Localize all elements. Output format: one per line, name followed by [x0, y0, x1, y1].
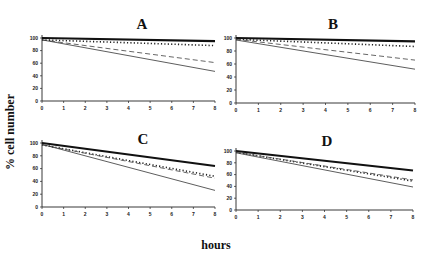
y-tick-label: 100 — [30, 35, 39, 41]
y-tick-label: 100 — [30, 140, 39, 146]
panel-a: A020406080100012345678 — [30, 16, 217, 111]
x-tick-label: 7 — [391, 107, 394, 113]
series-line-thick-solid — [42, 143, 215, 166]
x-tick-label: 3 — [105, 211, 108, 217]
y-tick-label: 40 — [226, 183, 232, 189]
y-tick-label: 100 — [224, 35, 233, 41]
y-tick-label: 80 — [32, 47, 38, 53]
x-tick-label: 6 — [170, 211, 173, 217]
x-tick-label: 1 — [62, 105, 65, 111]
y-tick-label: 0 — [35, 204, 38, 210]
y-tick-label: 60 — [226, 171, 232, 177]
x-tick-label: 1 — [62, 211, 65, 217]
y-tick-label: 20 — [32, 191, 38, 197]
y-tick-label: 20 — [32, 85, 38, 91]
y-tick-label: 40 — [226, 74, 232, 80]
x-tick-label: 7 — [389, 214, 392, 220]
panels-container: A020406080100012345678B02040608010001234… — [30, 16, 417, 220]
y-tick-label: 0 — [229, 100, 232, 106]
y-tick-label: 60 — [32, 165, 38, 171]
panel-title: D — [322, 133, 333, 149]
x-tick-label: 5 — [345, 214, 348, 220]
y-tick-label: 80 — [226, 160, 232, 166]
y-tick-label: 20 — [226, 195, 232, 201]
y-tick-label: 40 — [32, 178, 38, 184]
x-tick-label: 2 — [84, 211, 87, 217]
x-tick-label: 8 — [214, 105, 217, 111]
x-tick-label: 7 — [192, 105, 195, 111]
panel-d: D020406080100012345678 — [224, 133, 415, 220]
y-tick-label: 100 — [224, 148, 233, 154]
series-line-thick-solid — [42, 38, 215, 41]
x-tick-label: 5 — [149, 105, 152, 111]
y-tick-label: 80 — [226, 48, 232, 54]
y-tick-label: 40 — [32, 73, 38, 79]
y-tick-label: 60 — [226, 61, 232, 67]
x-tick-label: 8 — [414, 107, 417, 113]
x-tick-label: 4 — [127, 105, 130, 111]
x-tick-label: 3 — [301, 214, 304, 220]
x-tick-label: 2 — [279, 214, 282, 220]
series-line-thin-solid — [42, 144, 215, 190]
x-tick-label: 2 — [84, 105, 87, 111]
panel-b: B020406080100012345678 — [224, 16, 417, 113]
figure: A020406080100012345678B02040608010001234… — [0, 0, 430, 265]
panel-title: B — [328, 16, 338, 32]
x-tick-label: 4 — [323, 214, 326, 220]
x-tick-label: 7 — [192, 211, 195, 217]
y-tick-label: 60 — [32, 60, 38, 66]
panel-title: C — [138, 131, 149, 147]
x-tick-label: 5 — [346, 107, 349, 113]
y-axis-title: % cell number — [3, 93, 17, 170]
series-line-thin-solid — [236, 40, 415, 69]
x-tick-label: 6 — [369, 107, 372, 113]
series-line-thick-solid — [236, 151, 413, 171]
x-axis-title: hours — [201, 238, 231, 252]
x-tick-label: 0 — [41, 105, 44, 111]
series-line-thick-solid — [236, 38, 415, 41]
x-tick-label: 5 — [149, 211, 152, 217]
x-tick-label: 6 — [367, 214, 370, 220]
x-tick-label: 4 — [324, 107, 327, 113]
x-tick-label: 1 — [257, 107, 260, 113]
y-tick-label: 0 — [229, 207, 232, 213]
x-tick-label: 1 — [257, 214, 260, 220]
series-line-dashed — [42, 40, 215, 63]
series-line-dashed — [236, 152, 413, 180]
panel-title: A — [137, 16, 148, 32]
x-tick-label: 0 — [235, 214, 238, 220]
x-tick-label: 4 — [127, 211, 130, 217]
y-tick-label: 20 — [226, 87, 232, 93]
x-tick-label: 3 — [105, 105, 108, 111]
x-tick-label: 2 — [279, 107, 282, 113]
x-tick-label: 8 — [412, 214, 415, 220]
series-line-thin-solid — [236, 153, 413, 187]
panel-c: C020406080100012345678 — [30, 131, 217, 217]
x-tick-label: 0 — [41, 211, 44, 217]
x-tick-label: 0 — [235, 107, 238, 113]
y-tick-label: 0 — [35, 98, 38, 104]
y-tick-label: 80 — [32, 153, 38, 159]
x-tick-label: 3 — [302, 107, 305, 113]
x-tick-label: 8 — [214, 211, 217, 217]
x-tick-label: 6 — [170, 105, 173, 111]
